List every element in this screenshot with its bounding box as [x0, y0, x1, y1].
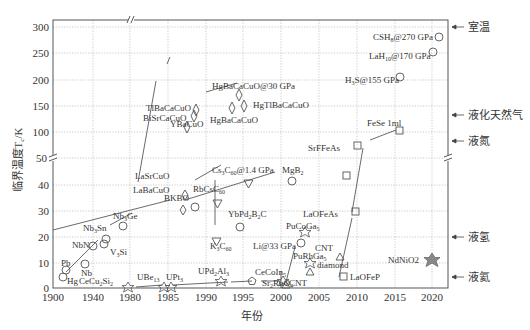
svg-text:CSH8@270 GPa: CSH8@270 GPa	[373, 32, 433, 43]
svg-text:300: 300	[33, 21, 50, 33]
svg-text:2005: 2005	[308, 291, 331, 303]
svg-text:250: 250	[33, 47, 50, 59]
svg-text:液氮: 液氮	[468, 134, 490, 147]
x-tick-labels: 1900 1940 1980 1985 1990 1995 2000 2005 …	[42, 291, 444, 303]
svg-text:2020: 2020	[421, 291, 444, 303]
svg-text:40: 40	[38, 179, 50, 191]
svg-text:30: 30	[38, 205, 50, 217]
svg-text:FeSe 1ml: FeSe 1ml	[367, 118, 402, 128]
svg-text:CNT: CNT	[289, 278, 308, 288]
svg-text:UPt3: UPt3	[166, 272, 183, 283]
svg-text:CNT: CNT	[315, 243, 334, 253]
svg-text:BiSrCaCuO: BiSrCaCuO	[143, 113, 187, 123]
svg-text:UPd2Al3: UPd2Al3	[198, 266, 229, 277]
svg-text:1995: 1995	[232, 291, 255, 303]
svg-text:液氦: 液氦	[468, 270, 490, 283]
svg-text:1980: 1980	[119, 291, 142, 303]
svg-text:Hg: Hg	[67, 276, 78, 286]
svg-text:TlBaCaCuO: TlBaCaCuO	[146, 103, 191, 113]
svg-text:Nb3Sn: Nb3Sn	[83, 223, 107, 234]
temperature-references	[452, 25, 464, 279]
svg-text:Nb3Ge: Nb3Ge	[113, 211, 138, 222]
svg-text:2015: 2015	[384, 291, 407, 303]
svg-text:2010: 2010	[346, 291, 369, 303]
svg-text:1940: 1940	[82, 291, 105, 303]
svg-text:MgB2: MgB2	[282, 165, 304, 176]
svg-text:YbPd2B2C: YbPd2B2C	[228, 209, 267, 220]
x-axis-title: 年份	[241, 309, 263, 322]
y-tick-labels: 300 250 200 150 100 50 40 30 20 10 0	[33, 21, 50, 294]
svg-text:10: 10	[38, 257, 50, 269]
svg-text:PuCoGa5: PuCoGa5	[286, 221, 320, 232]
svg-text:H3S@155 GPa: H3S@155 GPa	[345, 75, 399, 86]
svg-text:室温: 室温	[468, 20, 490, 33]
svg-text:液氢: 液氢	[468, 230, 490, 243]
svg-text:CeCoIn5: CeCoIn5	[255, 267, 286, 278]
svg-text:1900: 1900	[42, 291, 65, 303]
y-axis-title: 临界温度Tc/K	[11, 128, 26, 193]
svg-text:CeCu2Si2: CeCu2Si2	[79, 276, 113, 287]
svg-text:液化天然气: 液化天然气	[468, 108, 523, 121]
svg-text:RbCsC60: RbCsC60	[193, 184, 225, 195]
markers-circle	[59, 33, 443, 281]
svg-text:LaSrCuO: LaSrCuO	[135, 171, 170, 181]
svg-text:HgBaCaCuO@30 GPa: HgBaCaCuO@30 GPa	[212, 81, 295, 91]
svg-text:NbN: NbN	[72, 240, 90, 250]
svg-text:Cs3C60@1.4 GPa: Cs3C60@1.4 GPa	[212, 165, 274, 176]
svg-text:diamond: diamond	[317, 260, 349, 270]
svg-text:100: 100	[33, 126, 50, 138]
svg-text:2000: 2000	[270, 291, 293, 303]
svg-text:临界温度Tc/K: 临界温度Tc/K	[11, 128, 26, 193]
svg-text:LaOFeAs: LaOFeAs	[303, 209, 338, 219]
svg-text:UBe13: UBe13	[137, 272, 160, 283]
svg-text:200: 200	[33, 74, 50, 86]
svg-text:K3C60: K3C60	[210, 241, 232, 252]
tc-timeline-chart: 300 250 200 150 100 50 40 30 20 10 0 190…	[0, 0, 530, 330]
point-labels: Hg Pb Nb NbN Nb3Sn V3Si Nb3Ge CeCu2Si2 U…	[61, 32, 433, 289]
svg-text:Li@33 GPa: Li@33 GPa	[253, 241, 296, 251]
svg-text:LaOFeP: LaOFeP	[350, 272, 380, 282]
svg-text:150: 150	[33, 100, 50, 112]
svg-text:1990: 1990	[195, 291, 218, 303]
svg-text:NdNiO2: NdNiO2	[388, 255, 419, 265]
svg-text:V3Si: V3Si	[110, 247, 128, 258]
svg-text:Pb: Pb	[61, 258, 71, 268]
svg-text:HgTlBaCaCuO: HgTlBaCaCuO	[253, 100, 309, 110]
svg-text:HgBaCaCuO: HgBaCaCuO	[210, 115, 258, 125]
svg-text:LaH10@170 GPa: LaH10@170 GPa	[369, 51, 431, 62]
svg-text:LaBaCuO: LaBaCuO	[133, 185, 170, 195]
svg-text:50: 50	[36, 152, 48, 164]
svg-text:20: 20	[38, 231, 50, 243]
svg-text:SrFFeAs: SrFFeAs	[308, 143, 341, 153]
temperature-reference-labels: 室温 液化天然气 液氮 液氢 液氦	[468, 20, 523, 283]
